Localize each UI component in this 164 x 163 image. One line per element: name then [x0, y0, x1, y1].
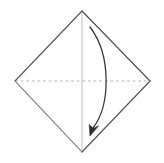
origami-diagram-canvas — [0, 0, 164, 163]
origami-diagram-svg — [0, 0, 164, 163]
